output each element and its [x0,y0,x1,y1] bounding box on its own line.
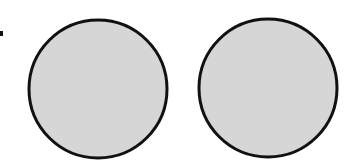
circle-right [199,19,337,157]
diagram-canvas [0,0,349,166]
circle-left [29,20,167,158]
marker-dot [0,31,3,36]
